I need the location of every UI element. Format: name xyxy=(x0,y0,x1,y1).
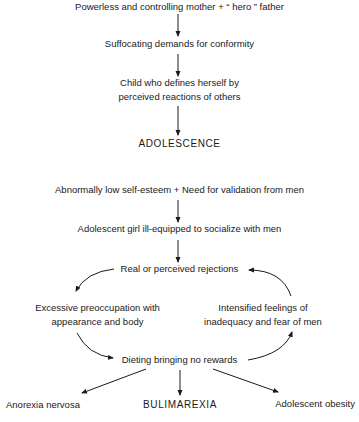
node-preoccupation-line1: Excessive preoccupation with xyxy=(20,301,175,315)
node-child: Child who defines herself by perceived r… xyxy=(0,76,359,104)
node-dieting: Dieting bringing no rewards xyxy=(0,353,359,367)
arrow-dieting-to-obesity xyxy=(213,369,278,392)
node-inadequacy-line1: Intensified feelings of xyxy=(188,301,338,315)
node-bulimarexia: BULIMAREXIA xyxy=(130,398,230,412)
node-origin: Powerless and controlling mother + “ her… xyxy=(0,0,359,14)
node-ill-equipped: Adolescent girl ill-equipped to socializ… xyxy=(0,222,359,236)
node-child-line1: Child who defines herself by xyxy=(0,76,359,90)
node-obesity-label: Adolescent obesity xyxy=(275,398,355,409)
node-rejections-label: Real or perceived rejections xyxy=(121,263,239,274)
node-conformity-label: Suffocating demands for conformity xyxy=(105,38,254,49)
node-origin-label: Powerless and controlling mother + “ her… xyxy=(75,1,284,12)
node-dieting-label: Dieting bringing no rewards xyxy=(122,354,238,365)
node-adolescence-label: ADOLESCENCE xyxy=(138,138,220,149)
node-inadequacy-line2: inadequacy and fear of men xyxy=(188,315,338,329)
node-rejections: Real or perceived rejections xyxy=(0,262,359,276)
node-anorexia-label: Anorexia nervosa xyxy=(6,399,80,410)
arrow-dieting-to-anorexia xyxy=(82,369,146,393)
node-preoccupation-line2: appearance and body xyxy=(20,315,175,329)
node-adolescence: ADOLESCENCE xyxy=(0,137,359,151)
node-anorexia: Anorexia nervosa xyxy=(6,398,96,412)
node-ill-equipped-label: Adolescent girl ill-equipped to socializ… xyxy=(78,223,282,234)
node-bulimarexia-label: BULIMAREXIA xyxy=(143,399,217,410)
node-esteem-label: Abnormally low self-esteem + Need for va… xyxy=(55,184,304,195)
node-obesity: Adolescent obesity xyxy=(255,397,355,411)
node-inadequacy: Intensified feelings of inadequacy and f… xyxy=(188,301,338,329)
node-preoccupation: Excessive preoccupation with appearance … xyxy=(20,301,175,329)
node-conformity: Suffocating demands for conformity xyxy=(0,37,359,51)
node-esteem: Abnormally low self-esteem + Need for va… xyxy=(0,183,359,197)
node-child-line2: perceived reactions of others xyxy=(0,90,359,104)
